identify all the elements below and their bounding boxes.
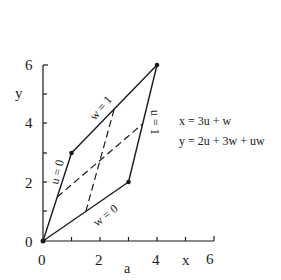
y-axis (43, 65, 48, 241)
y-axis-label: y (15, 85, 23, 101)
figure-caption: a (124, 261, 131, 276)
x-tick-6: 6 (206, 251, 214, 267)
vertex-4-6 (155, 63, 160, 68)
y-tick-2: 2 (25, 175, 33, 191)
dashed-w-half (57, 124, 143, 197)
vertex-3-2 (126, 180, 131, 185)
y-tick-6: 6 (25, 57, 33, 73)
x-axis (43, 236, 214, 241)
label-u0: u = 0 (47, 158, 67, 185)
mapping-diagram: y 6 4 2 0 0 2 4 x 6 a w = 1 u = 0 u = 1 … (0, 0, 281, 280)
label-u1: u = 1 (148, 110, 162, 135)
equation-x: x = 3u + w (179, 114, 232, 128)
x-tick-4: 4 (152, 252, 160, 268)
y-tick-0: 0 (25, 234, 33, 250)
x-tick-0: 0 (38, 252, 46, 268)
vertex-origin (41, 239, 46, 244)
y-tick-4: 4 (25, 115, 33, 131)
x-tick-2: 2 (95, 252, 103, 268)
label-w1: w = 1 (87, 93, 115, 123)
vertex-1-3 (69, 151, 74, 156)
x-axis-label: x (182, 252, 190, 268)
edge-w1 (72, 65, 158, 153)
equation-y: y = 2u + 3w + uw (179, 134, 265, 148)
